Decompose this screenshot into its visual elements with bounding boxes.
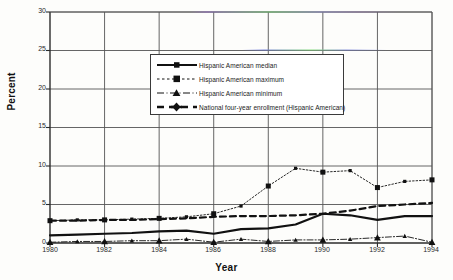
legend-swatch-dashed-line-icon xyxy=(155,101,199,113)
legend-swatch-solid-line-icon xyxy=(155,59,199,71)
legend-label: Hispanic American minimum xyxy=(199,90,282,97)
gridlines xyxy=(50,12,432,243)
legend-label: Hispanic American median xyxy=(199,62,277,69)
legend-item-minimum: Hispanic American minimum xyxy=(155,86,339,100)
legend-item-national-enrollment: National four-year enrollment (Hispanic … xyxy=(155,100,339,114)
legend-item-median: Hispanic American median xyxy=(155,58,339,72)
plot-area xyxy=(0,0,453,280)
legend-label: Hispanic American maximum xyxy=(199,76,284,83)
legend-swatch-dashdot-line-icon xyxy=(155,87,199,99)
chart-legend: Hispanic American median Hispanic Americ… xyxy=(150,54,344,115)
legend-label: National four-year enrollment (Hispanic … xyxy=(199,104,345,111)
axis-ticks xyxy=(46,12,432,247)
legend-item-maximum: Hispanic American maximum xyxy=(155,72,339,86)
legend-swatch-dotted-line-icon xyxy=(155,73,199,85)
chart-figure: Percent 0 5 10 15 20 25 30 1980 1982 198… xyxy=(0,0,453,280)
